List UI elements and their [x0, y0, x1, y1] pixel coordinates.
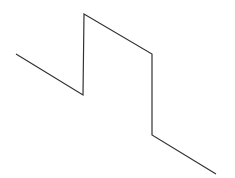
diagram-canvas [0, 0, 235, 178]
zigzag-line [16, 14, 216, 174]
